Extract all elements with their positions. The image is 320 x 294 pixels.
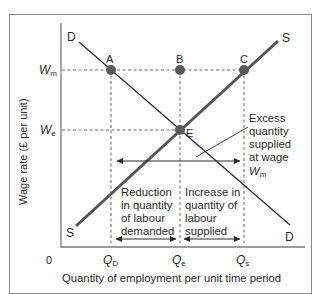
svg-text:Excess: Excess: [249, 112, 286, 124]
svg-text:quantity: quantity: [249, 125, 289, 137]
y-tick-wm: Wm: [39, 63, 57, 78]
excess-supply-annotation: Excess quantity supplied at wage Wm: [249, 112, 291, 179]
point-c-label: C: [240, 53, 248, 65]
svg-text:Reduction: Reduction: [121, 186, 172, 198]
point-c: [239, 65, 249, 75]
demand-bottom-label: D: [285, 230, 294, 244]
svg-text:labour: labour: [185, 212, 217, 224]
point-b: [175, 65, 185, 75]
demand-top-label: D: [67, 30, 76, 44]
x-tick-qe: Qe: [172, 253, 186, 268]
svg-text:in quantity: in quantity: [121, 199, 173, 211]
svg-text:of labour: of labour: [121, 212, 165, 224]
origin-label: 0: [46, 254, 52, 266]
reduction-demanded-annotation: Reduction in quantity of labour demanded: [121, 186, 174, 237]
x-axis-title: Quantity of employment per unit time per…: [62, 272, 281, 284]
svg-text:Wm: Wm: [249, 165, 267, 179]
point-e: [175, 125, 185, 135]
svg-text:supplied: supplied: [249, 138, 291, 150]
point-a-label: A: [106, 53, 114, 65]
point-a: [106, 65, 116, 75]
x-tick-qd: QD: [103, 253, 118, 268]
excess-pointer-line: [196, 127, 248, 157]
y-axis-title: Wage rate (£ per unit): [17, 98, 29, 205]
x-tick-qs: Qs: [236, 253, 249, 268]
svg-text:quantity of: quantity of: [185, 199, 238, 211]
point-b-label: B: [176, 53, 183, 65]
svg-text:at wage: at wage: [249, 151, 289, 163]
point-e-label: E: [186, 127, 193, 139]
svg-text:demanded: demanded: [121, 225, 174, 237]
increase-supplied-annotation: Increase in quantity of labour supplied: [185, 186, 240, 237]
supply-bottom-label: S: [66, 226, 74, 240]
supply-top-label: S: [282, 31, 290, 45]
svg-text:Increase in: Increase in: [185, 186, 240, 198]
svg-text:supplied: supplied: [185, 225, 227, 237]
y-tick-we: We: [40, 123, 56, 138]
